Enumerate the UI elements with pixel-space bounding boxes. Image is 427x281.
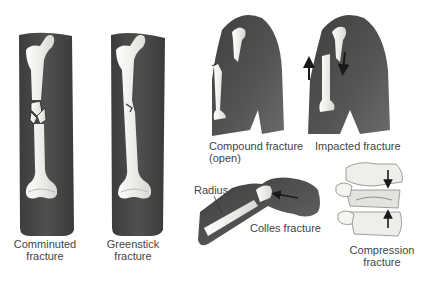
impacted-arm	[308, 15, 390, 134]
compound-label: Compound fracture (open)	[209, 140, 303, 164]
radius-callout: Radius	[194, 184, 228, 196]
colles-label: Colles fracture	[250, 222, 321, 234]
compression-label: Compression fracture	[344, 244, 420, 268]
impacted-label: Impacted fracture	[315, 140, 401, 152]
comminuted-leg	[19, 33, 74, 236]
greenstick-leg	[111, 33, 165, 236]
compound-arm	[212, 15, 284, 136]
comminuted-label: Comminuted fracture	[10, 238, 80, 262]
greenstick-label: Greenstick fracture	[98, 238, 168, 262]
compression-vertebrae	[336, 163, 402, 236]
